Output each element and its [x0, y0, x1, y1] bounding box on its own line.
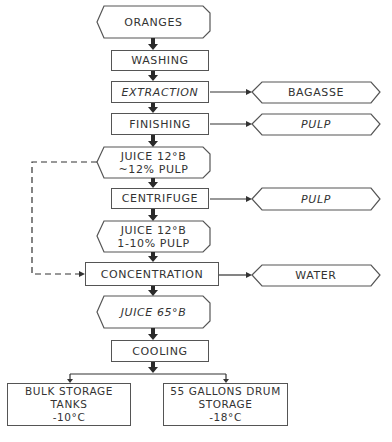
node-cooling: COOLING: [111, 340, 209, 362]
figure-caption-clipped: [8, 437, 218, 442]
storage-bulk-tanks: BULK STORAGE TANKS -10°C: [7, 383, 131, 426]
node-juice-65: JUICE 65°B: [97, 296, 210, 328]
node-washing: WASHING: [111, 50, 209, 71]
node-label: CENTRIFUGE: [122, 192, 198, 205]
node-juice-1-10-pulp: JUICE 12°B 1-10% PULP: [97, 221, 210, 252]
output-label: BAGASSE: [288, 86, 344, 99]
node-label: FINISHING: [129, 118, 191, 131]
storage-label: BULK STORAGE TANKS -10°C: [25, 385, 113, 424]
node-finishing: FINISHING: [111, 113, 209, 135]
node-label: WASHING: [131, 54, 188, 67]
storage-drum: 55 GALLONS DRUM STORAGE -18°C: [163, 383, 288, 426]
bypass-line: [32, 162, 97, 274]
output-label: WATER: [295, 269, 336, 282]
output-label: PULP: [301, 193, 331, 206]
output-water: WATER: [252, 265, 380, 286]
node-label: ORANGES: [124, 16, 182, 29]
output-bagasse: BAGASSE: [252, 82, 380, 103]
output-label: PULP: [301, 118, 331, 131]
node-concentration: CONCENTRATION: [85, 262, 219, 286]
node-label: EXTRACTION: [122, 86, 199, 99]
node-label: JUICE 12°B 1-10% PULP: [117, 224, 189, 250]
node-label: COOLING: [132, 345, 187, 358]
node-label: CONCENTRATION: [101, 268, 204, 281]
output-pulp-finishing: PULP: [252, 114, 380, 135]
node-label: JUICE 65°B: [121, 306, 187, 319]
node-label: JUICE 12°B ~12% PULP: [118, 150, 188, 176]
node-centrifuge: CENTRIFUGE: [111, 188, 209, 209]
storage-label: 55 GALLONS DRUM STORAGE -18°C: [170, 385, 281, 424]
node-juice-12-pulp: JUICE 12°B ~12% PULP: [97, 147, 210, 178]
output-pulp-centrifuge: PULP: [252, 188, 380, 210]
node-extraction: EXTRACTION: [111, 81, 209, 103]
node-oranges: ORANGES: [97, 6, 210, 38]
